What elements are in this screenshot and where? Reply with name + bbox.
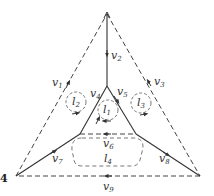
label-v7: v7 xyxy=(52,152,63,166)
loop-diagram: v1 v2 v3 v4 v5 v6 v7 v8 v9 l1 l2 l3 l4 4 xyxy=(0,0,214,196)
loop-l2-arrow xyxy=(72,113,78,114)
diagram-svg: v1 v2 v3 v4 v5 v6 v7 v8 v9 l1 l2 l3 l4 4 xyxy=(0,0,214,196)
label-v3: v3 xyxy=(154,75,165,89)
label-l1: l1 xyxy=(103,103,111,117)
label-l3: l3 xyxy=(137,96,146,110)
figure-number: 4 xyxy=(0,172,8,185)
label-v4: v4 xyxy=(90,87,101,101)
label-v1: v1 xyxy=(52,76,63,90)
label-l2: l2 xyxy=(72,95,81,109)
arrow-v4 xyxy=(96,118,99,124)
label-v6: v6 xyxy=(103,137,114,151)
edge-v7 xyxy=(16,134,80,176)
arrow-v1 xyxy=(66,82,69,88)
label-l4: l4 xyxy=(104,152,112,166)
label-v9: v9 xyxy=(103,180,114,194)
label-v8: v8 xyxy=(159,152,170,166)
label-v5: v5 xyxy=(117,85,128,99)
label-v2: v2 xyxy=(111,49,122,63)
loop-l3-arrow xyxy=(140,114,146,115)
